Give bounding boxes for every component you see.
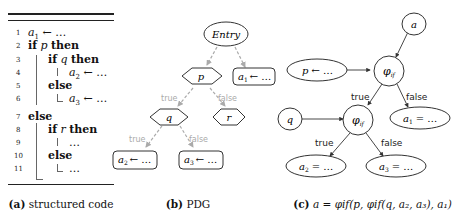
caption-text: PDG: [186, 198, 210, 210]
edge-p-q: [178, 88, 193, 106]
edge-a-phi1: [396, 32, 408, 57]
edge-label-phi2-true: true: [315, 138, 334, 148]
caption-label: (c): [293, 198, 309, 210]
edge-label-p-false: false: [218, 94, 237, 103]
diagram-canvas: true false true false Entry p a1← … q r …: [0, 0, 463, 216]
caption-c: (c) a = φif(p, φif(q, a₂, a₃), a₁): [285, 198, 460, 210]
pdg-node-entry: Entry: [204, 22, 248, 46]
caption-b: (b) PDG: [148, 198, 228, 210]
q-label: q: [166, 112, 172, 123]
a2-label: a2← …: [118, 154, 151, 166]
ssa-node-p-assign: p← …: [287, 59, 347, 81]
pdg-node-a2: a2← …: [113, 151, 157, 169]
edge-label-q-true: true: [129, 135, 145, 144]
ssa-node-a: a: [402, 13, 426, 35]
pdg-node-a3: a3← …: [179, 151, 223, 169]
pdg-node-q: q: [150, 109, 188, 125]
pdg-node-a1: a1← …: [233, 68, 275, 85]
edge-label-phi2-false: false: [381, 138, 403, 148]
entry-label: Entry: [211, 29, 241, 40]
pdg-node-r: r: [213, 109, 245, 125]
ssa-node-a2: a2= …: [286, 155, 346, 177]
a3-label: a3= …: [379, 161, 413, 173]
caption-label: (b): [166, 198, 183, 210]
edge-entry-a1: [235, 47, 245, 67]
ssa-node-a1: a1= …: [390, 107, 450, 129]
a1-label: a1← …: [238, 71, 271, 83]
a3-label: a3← …: [184, 154, 217, 166]
ssa-node-q: q: [278, 108, 302, 130]
q-label: q: [287, 114, 293, 125]
edge-q-a2: [146, 126, 162, 147]
edge-entry-p: [207, 47, 217, 65]
pdg-node-p: p: [182, 68, 222, 84]
edge-label-p-true: true: [161, 94, 177, 103]
caption-formula: a = φif(p, φif(q, a₂, a₃), a₁): [313, 198, 452, 210]
edge-phi1-phi2: [368, 84, 382, 105]
edge-label-phi1-true: true: [351, 92, 370, 102]
p-label: p: [198, 71, 205, 82]
a2-label: a2= …: [299, 161, 333, 173]
p-assign-label: p← …: [302, 65, 333, 76]
a-label: a: [411, 19, 417, 30]
ssa-node-phi-if-1: φif: [374, 56, 404, 86]
edge-label-phi1-false: false: [406, 92, 428, 102]
a1-label: a1= …: [403, 113, 437, 125]
ssa-node-a3: a3= …: [366, 155, 426, 177]
edge-label-q-false: false: [189, 135, 208, 144]
ssa-node-phi-if-2: φif: [343, 105, 373, 135]
